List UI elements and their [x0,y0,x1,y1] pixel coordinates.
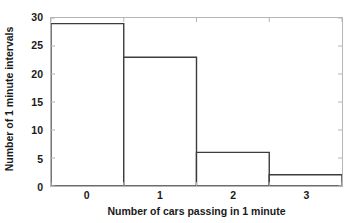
histogram-figure: Number of 1 minute intervals 05101520253… [0,0,357,223]
x-axis-title: Number of cars passing in 1 minute [50,205,343,217]
y-tick-label: 25 [31,39,43,51]
plot-area [50,17,343,187]
y-tick-label: 15 [31,96,43,108]
histogram-bar [269,175,342,186]
y-tick-label: 30 [31,11,43,23]
y-axis-title: Number of 1 minute intervals [0,0,18,198]
x-tick-label: 2 [230,189,236,201]
y-tick-label: 10 [31,124,43,136]
x-axis-tick-labels: 0123 [50,189,343,204]
y-tick-label: 0 [37,181,43,193]
x-tick-label: 3 [303,189,309,201]
x-tick-label: 0 [84,189,90,201]
y-tick-label: 5 [37,153,43,165]
y-axis-tick-labels: 051015202530 [18,0,46,198]
histogram-bar [124,57,197,186]
histogram-bars [51,18,342,186]
x-tick-label: 1 [157,189,163,201]
y-tick-label: 20 [31,68,43,80]
histogram-bar [51,24,124,186]
histogram-bar [197,152,270,186]
y-axis-title-text: Number of 1 minute intervals [3,27,15,172]
